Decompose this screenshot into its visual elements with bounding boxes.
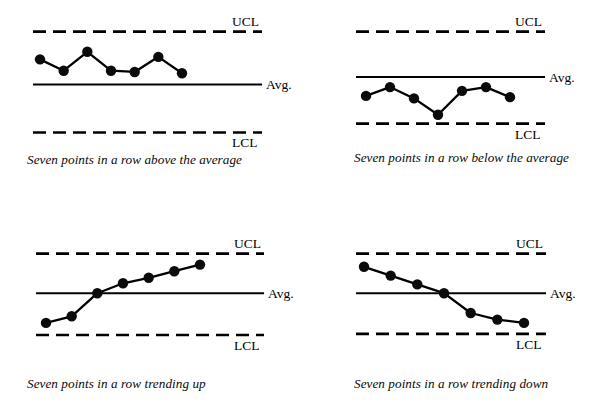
- series-group: [359, 262, 529, 329]
- series-group: [361, 82, 515, 120]
- data-point-marker: [118, 278, 128, 288]
- panel-caption: Seven points in a row trending up: [27, 376, 277, 393]
- chart-svg: UCLAvg.LCL: [302, 206, 605, 356]
- data-point-marker: [481, 82, 491, 92]
- chart-svg: UCLAvg.LCL: [0, 206, 302, 356]
- chart-svg: UCLAvg.LCL: [302, 0, 605, 150]
- reference-label-lcl: LCL: [234, 338, 260, 353]
- data-point-marker: [433, 110, 443, 120]
- panel-seven-above-average: UCLAvg.LCL Seven points in a row above t…: [0, 0, 302, 206]
- panel-caption: Seven points in a row below the average: [354, 150, 569, 167]
- panel-seven-trending-up: UCLAvg.LCL Seven points in a row trendin…: [0, 206, 302, 412]
- reference-label-avg: Avg.: [268, 286, 294, 301]
- data-point-marker: [143, 273, 153, 283]
- chart-seven-trending-down: UCLAvg.LCL: [302, 206, 605, 356]
- data-point-marker: [195, 259, 205, 269]
- data-point-marker: [439, 288, 449, 298]
- panel-caption: Seven points in a row trending down: [354, 376, 594, 393]
- reference-lines: [33, 32, 262, 133]
- reference-lines: [356, 32, 545, 124]
- reference-label-lcl: LCL: [232, 135, 258, 150]
- data-point-marker: [385, 270, 395, 280]
- data-point-marker: [409, 93, 419, 103]
- reference-label-lcl: LCL: [515, 127, 541, 142]
- reference-label-ucl: UCL: [232, 14, 259, 29]
- data-point-marker: [412, 279, 422, 289]
- reference-label-ucl: UCL: [234, 236, 261, 251]
- data-point-marker: [457, 86, 467, 96]
- panel-seven-below-average: UCLAvg.LCL Seven points in a row below t…: [302, 0, 605, 206]
- data-point-marker: [361, 91, 371, 101]
- control-chart-grid: UCLAvg.LCL Seven points in a row above t…: [0, 0, 605, 412]
- data-point-marker: [465, 308, 475, 318]
- data-point-marker: [385, 82, 395, 92]
- reference-lines: [36, 254, 264, 335]
- reference-label-avg: Avg.: [266, 77, 292, 92]
- panel-seven-trending-down: UCLAvg.LCL Seven points in a row trendin…: [302, 206, 605, 412]
- reference-label-ucl: UCL: [515, 14, 542, 29]
- data-point-marker: [492, 314, 502, 324]
- data-point-marker: [359, 262, 369, 272]
- panel-caption: Seven points in a row above the average: [27, 152, 277, 169]
- data-point-marker: [106, 66, 116, 76]
- chart-seven-below-average: UCLAvg.LCL: [302, 0, 605, 150]
- data-point-marker: [505, 92, 515, 102]
- chart-seven-above-average: UCLAvg.LCL: [0, 0, 302, 150]
- reference-label-ucl: UCL: [516, 236, 543, 251]
- reference-label-lcl: LCL: [516, 337, 542, 352]
- data-point-marker: [58, 66, 68, 76]
- chart-seven-trending-up: UCLAvg.LCL: [0, 206, 302, 356]
- data-point-marker: [177, 68, 187, 78]
- data-point-marker: [129, 67, 139, 77]
- data-point-marker: [153, 52, 163, 62]
- reference-label-avg: Avg.: [550, 286, 576, 301]
- reference-label-avg: Avg.: [549, 70, 575, 85]
- data-point-marker: [169, 266, 179, 276]
- data-point-marker: [82, 47, 92, 57]
- series-group: [35, 47, 187, 79]
- data-point-marker: [66, 311, 76, 321]
- data-point-marker: [519, 318, 529, 328]
- data-point-marker: [35, 54, 45, 64]
- axis-labels: UCLAvg.LCL: [232, 14, 292, 151]
- chart-svg: UCLAvg.LCL: [0, 0, 302, 150]
- data-point-marker: [41, 318, 51, 328]
- data-point-marker: [92, 288, 102, 298]
